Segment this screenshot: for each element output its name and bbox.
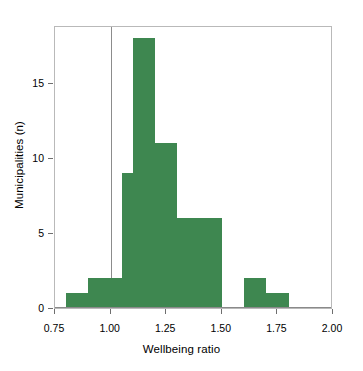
x-tick-label: 1.50	[211, 322, 231, 334]
y-tick-mark	[48, 233, 53, 234]
x-tick-mark	[332, 309, 333, 314]
x-tick-mark	[276, 309, 277, 314]
histogram-bar	[133, 38, 155, 308]
histogram-bar	[266, 293, 288, 308]
y-tick-label: 0	[18, 302, 44, 314]
histogram-bar	[244, 278, 266, 308]
y-tick-mark	[48, 158, 53, 159]
histogram-bar	[155, 143, 177, 308]
plot-area	[54, 26, 332, 309]
axis-baseline	[55, 307, 331, 308]
plot-inner	[55, 27, 331, 308]
histogram-bar	[177, 218, 221, 308]
x-tick-mark	[221, 309, 222, 314]
x-tick-label: 1.75	[266, 322, 286, 334]
histogram-bar	[66, 293, 88, 308]
histogram-figure: 0.751.001.251.501.752.00 051015 Wellbein…	[0, 0, 363, 371]
x-tick-label: 1.25	[155, 322, 175, 334]
x-tick-mark	[165, 309, 166, 314]
y-axis-title-wrapper: Municipalities (n)	[13, 65, 33, 265]
x-axis-title: Wellbeing ratio	[0, 343, 363, 355]
y-tick-mark	[48, 308, 53, 309]
x-tick-mark	[110, 309, 111, 314]
reference-line-vertical	[111, 27, 112, 308]
x-tick-label: 2.00	[322, 322, 342, 334]
x-tick-label: 0.75	[44, 322, 64, 334]
y-tick-mark	[48, 83, 53, 84]
x-tick-mark	[54, 309, 55, 314]
histogram-bar	[122, 173, 133, 308]
x-tick-label: 1.00	[99, 322, 119, 334]
histogram-bar	[88, 278, 121, 308]
y-axis-title: Municipalities (n)	[13, 65, 25, 265]
